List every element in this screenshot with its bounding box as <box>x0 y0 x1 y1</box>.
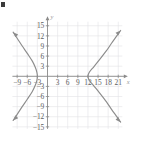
y-tick-label--9: −9 <box>36 102 44 111</box>
y-tick-label--6: −6 <box>36 92 44 101</box>
y-tick-label-15: 15 <box>37 21 45 30</box>
y-tick-label-12: 12 <box>37 32 45 41</box>
x-tick-label-3: 3 <box>56 78 60 87</box>
y-tick-label--15: −15 <box>33 123 45 132</box>
x-tick-labels: −9−6−336912151821 <box>13 78 122 87</box>
x-tick-label-21: 21 <box>115 78 123 87</box>
y-axis-arrowhead <box>46 16 50 20</box>
y-tick-label--12: −12 <box>33 112 45 121</box>
y-tick-label-6: 6 <box>41 52 45 61</box>
y-tick-label-3: 3 <box>41 62 45 71</box>
y-tick-label--3: −3 <box>36 82 44 91</box>
coordinate-plane: −9−6−336912151821 1512963−3−6−9−12−15 x … <box>0 0 146 142</box>
x-tick-label-6: 6 <box>66 78 70 87</box>
graph-figure: −9−6−336912151821 1512963−3−6−9−12−15 x … <box>0 0 146 142</box>
x-tick-label--6: −6 <box>23 78 31 87</box>
x-tick-label--9: −9 <box>13 78 21 87</box>
x-tick-label-15: 15 <box>94 78 102 87</box>
axis-lines <box>12 16 127 129</box>
x-tick-label-18: 18 <box>104 78 112 87</box>
x-tick-label-9: 9 <box>76 78 80 87</box>
y-tick-label-9: 9 <box>41 42 45 51</box>
y-axis-label: y <box>50 13 54 20</box>
x-axis-label: x <box>126 78 130 85</box>
